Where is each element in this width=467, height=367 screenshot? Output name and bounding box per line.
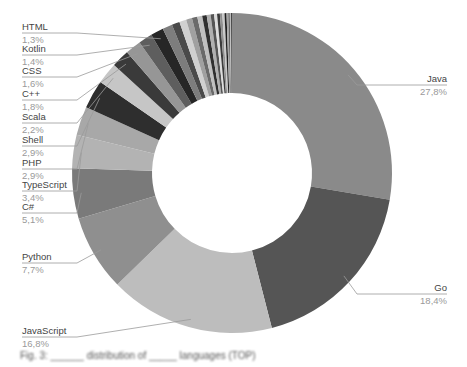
figure-caption: Fig. 3: ______ distribution of _____ lan… [20,350,256,361]
slice-java [232,13,392,200]
slice-label-value: 3,4% [22,192,44,203]
slice-label-value: 18,4% [420,295,447,306]
leader-line [344,276,447,294]
slice-label-value: 1,4% [22,56,44,67]
slice-label-name: HTML [22,21,48,32]
slice-label-value: 2,2% [22,124,44,135]
slice-label-value: 2,9% [22,147,44,158]
slice-label-name: Python [22,251,52,262]
slice-label-value: 2,9% [22,170,44,181]
slice-label-value: 1,8% [22,101,44,112]
donut-chart: Java27,8%Go18,4%JavaScript16,8%Python7,7… [0,0,467,367]
slice-label-value: 7,7% [22,264,44,275]
slice-label-name: JavaScript [22,325,67,336]
slice-label-value: 1,3% [22,34,44,45]
slice-label-name: Go [434,282,447,293]
slice-go [252,186,390,328]
slice-label-value: 5,1% [22,214,44,225]
slice-label-name: Java [427,73,448,84]
donut-slices [72,13,392,333]
slice-label-name: C++ [22,88,40,99]
slice-label-value: 27,8% [420,86,447,97]
slice-label-value: 1,6% [22,78,44,89]
slice-label-value: 16,8% [22,338,49,349]
slice-label-name: Shell [22,134,43,145]
slice-label-name: Scala [22,111,46,122]
slice-label-name: PHP [22,157,42,168]
